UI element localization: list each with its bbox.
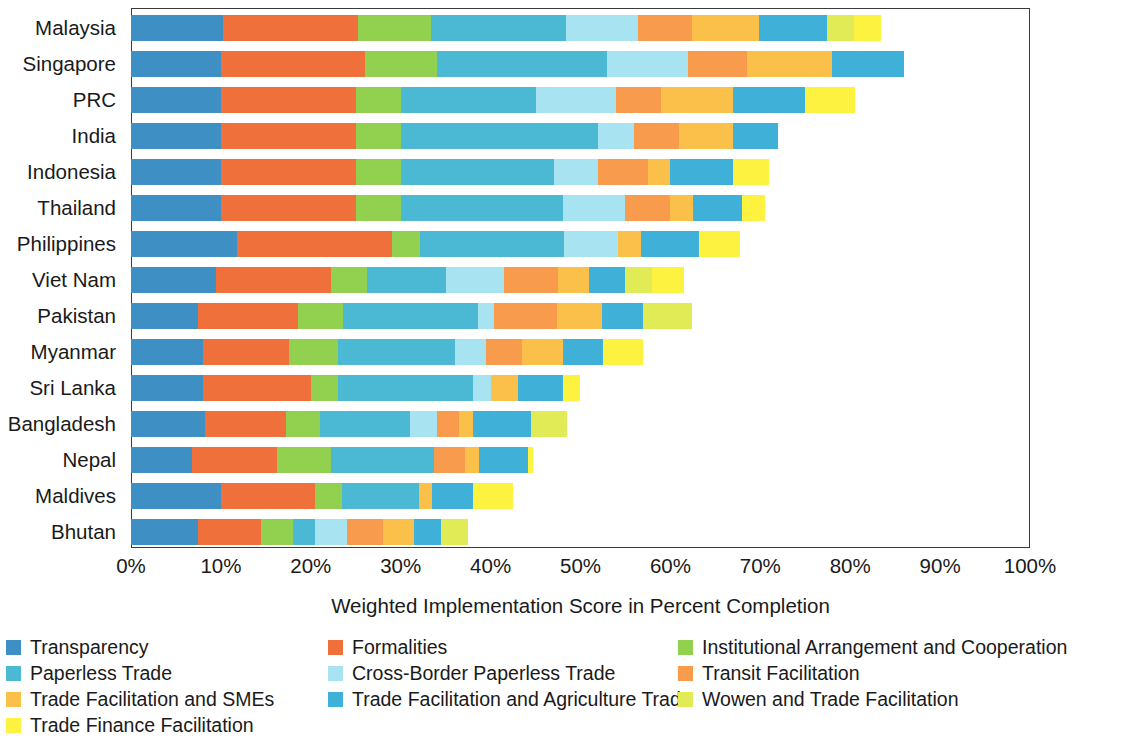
- bar-segment: [437, 51, 608, 77]
- bar-segment: [293, 519, 315, 545]
- bar-segment: [670, 195, 692, 221]
- bar-segment: [805, 87, 854, 113]
- bar-segment: [648, 159, 670, 185]
- bar-segment: [566, 15, 638, 41]
- bar-segment: [392, 231, 421, 257]
- bar-segment: [478, 303, 494, 329]
- bar-segment: [564, 231, 618, 257]
- bar-segment: [733, 87, 805, 113]
- bar-segment: [331, 267, 367, 293]
- bar-segment: [131, 267, 216, 293]
- bar-segment: [638, 15, 692, 41]
- y-axis-label: Bangladesh: [0, 414, 116, 435]
- bar-segment: [692, 15, 759, 41]
- bar-segment: [733, 123, 778, 149]
- bar-segment: [261, 519, 292, 545]
- bar-segment: [759, 15, 826, 41]
- bar-segment: [420, 231, 564, 257]
- legend-item[interactable]: Cross-Border Paperless Trade: [328, 664, 615, 684]
- bar-segment: [616, 87, 661, 113]
- bar-segment: [347, 519, 383, 545]
- bar-segment: [286, 411, 320, 437]
- bar-segment: [131, 123, 221, 149]
- bar-segment: [356, 159, 401, 185]
- legend-color-swatch: [328, 692, 343, 707]
- bar-segment: [441, 519, 468, 545]
- bar-segment: [491, 375, 518, 401]
- bar-segment: [625, 267, 652, 293]
- bar-segment: [643, 303, 692, 329]
- bar-segment: [315, 519, 346, 545]
- y-axis-label: Maldives: [0, 486, 116, 507]
- bar-segment: [652, 267, 683, 293]
- bar-segment: [473, 411, 531, 437]
- bar-segment: [465, 447, 478, 473]
- legend-item[interactable]: Trade Facilitation and SMEs: [6, 690, 274, 710]
- chart-legend: TransparencyFormalitiesInstitutional Arr…: [6, 638, 1124, 742]
- bar-segment: [437, 411, 459, 437]
- bar-segment: [431, 15, 566, 41]
- x-axis-tick: 10%: [200, 556, 241, 577]
- bar-segment: [331, 447, 434, 473]
- legend-item[interactable]: Paperless Trade: [6, 664, 172, 684]
- bar-segment: [419, 483, 432, 509]
- legend-label: Wowen and Trade Facilitation: [702, 690, 959, 710]
- bar-segment: [221, 195, 356, 221]
- y-axis-label: Malaysia: [0, 18, 116, 39]
- bar-segment: [216, 267, 330, 293]
- legend-item[interactable]: Trade Finance Facilitation: [6, 716, 254, 736]
- y-axis-label: Thailand: [0, 198, 116, 219]
- bar-segment: [531, 411, 567, 437]
- bar-segment: [203, 339, 289, 365]
- bar-segment: [198, 519, 261, 545]
- y-axis-label: Singapore: [0, 54, 116, 75]
- bar-segment: [131, 375, 203, 401]
- bar-segment: [221, 123, 356, 149]
- bar-segment: [356, 87, 401, 113]
- legend-item[interactable]: Transit Facilitation: [678, 664, 860, 684]
- bar-segment: [131, 447, 192, 473]
- bar-segment: [131, 87, 221, 113]
- bar-segment: [518, 375, 563, 401]
- bar-segment: [598, 123, 634, 149]
- bar-segment: [522, 339, 562, 365]
- bar-segment: [679, 123, 733, 149]
- bar-segment: [401, 159, 554, 185]
- bar-segment: [401, 195, 563, 221]
- legend-label: Institutional Arrangement and Cooperatio…: [702, 638, 1067, 658]
- bar-segment: [479, 447, 528, 473]
- bar-segment: [459, 411, 472, 437]
- bar-segment: [205, 411, 286, 437]
- bar-segment: [410, 411, 437, 437]
- bar-segment: [203, 375, 311, 401]
- y-axis-label: Indonesia: [0, 162, 116, 183]
- bar-segment: [598, 159, 647, 185]
- y-axis-label: Philippines: [0, 234, 116, 255]
- bar-segment: [670, 159, 733, 185]
- legend-item[interactable]: Trade Facilitation and Agriculture Trade: [328, 690, 692, 710]
- bar-segment: [602, 303, 642, 329]
- x-axis-tick: 90%: [920, 556, 961, 577]
- bar-segment: [747, 51, 832, 77]
- legend-label: Formalities: [352, 638, 447, 658]
- x-axis-tick: 60%: [650, 556, 691, 577]
- bar-segment: [358, 15, 432, 41]
- legend-label: Cross-Border Paperless Trade: [352, 664, 615, 684]
- bar-segment: [473, 375, 491, 401]
- bar-segment: [618, 231, 640, 257]
- legend-label: Transit Facilitation: [702, 664, 860, 684]
- bar-segment: [558, 267, 589, 293]
- x-axis-tick-labels: 0%10%20%30%40%50%60%70%80%90%100%: [131, 556, 1030, 590]
- bar-segment: [641, 231, 699, 257]
- legend-item[interactable]: Wowen and Trade Facilitation: [678, 690, 959, 710]
- bar-segment: [473, 483, 513, 509]
- legend-color-swatch: [6, 666, 21, 681]
- plot-area: MalaysiaSingaporePRCIndiaIndonesiaThaila…: [0, 0, 1126, 560]
- legend-item[interactable]: Institutional Arrangement and Cooperatio…: [678, 638, 1067, 658]
- bar-segment: [338, 339, 455, 365]
- bar-segment: [414, 519, 441, 545]
- bar-segment: [221, 51, 365, 77]
- bar-segment: [131, 231, 237, 257]
- legend-item[interactable]: Transparency: [6, 638, 149, 658]
- legend-item[interactable]: Formalities: [328, 638, 447, 658]
